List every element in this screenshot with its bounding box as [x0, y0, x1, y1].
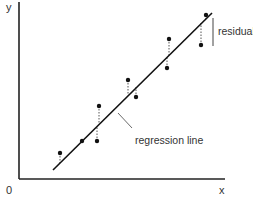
data-point: [134, 95, 138, 99]
origin-label: 0: [6, 184, 12, 196]
data-point: [58, 151, 62, 155]
data-point: [167, 37, 171, 41]
regression-line-label: regression line: [135, 134, 203, 146]
y-axis-label: y: [6, 1, 12, 13]
data-point: [204, 13, 208, 17]
data-point: [126, 78, 130, 82]
data-point: [199, 43, 203, 47]
x-axis-label: x: [219, 184, 225, 196]
data-point: [97, 104, 101, 108]
residual-label: residual: [218, 25, 253, 37]
regression-diagram: y 0 x residual regression line: [0, 0, 253, 203]
data-point: [80, 139, 84, 143]
data-point: [95, 139, 99, 143]
regression-line: [53, 13, 212, 170]
regression-line-leader: [118, 113, 132, 128]
data-point: [165, 66, 169, 70]
